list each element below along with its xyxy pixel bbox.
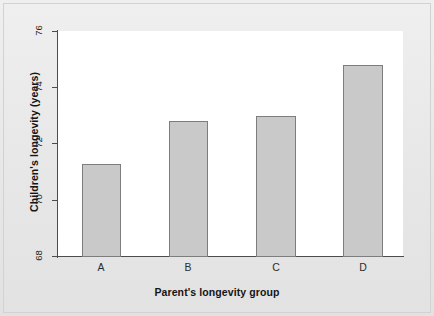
- bar-C: [256, 116, 296, 257]
- bar-D: [343, 65, 383, 257]
- x-tick-label-C: C: [256, 261, 296, 273]
- y-tick-mark-70: [52, 200, 58, 201]
- y-axis-title: Children's longevity (years): [28, 32, 40, 252]
- bar-A: [82, 164, 121, 257]
- figure-container: 76 74 72 70 68 A B C D Parent's longevit…: [0, 0, 434, 316]
- y-tick-mark-74: [52, 87, 58, 88]
- x-tick-label-A: A: [81, 261, 121, 273]
- y-tick-mark-72: [52, 143, 58, 144]
- x-tick-label-D: D: [343, 261, 383, 273]
- y-tick-mark-76: [52, 31, 58, 32]
- y-axis-line: [57, 30, 58, 258]
- y-tick-mark-68: [52, 256, 58, 257]
- x-tick-label-B: B: [168, 261, 208, 273]
- x-axis-title: Parent's longevity group: [0, 286, 434, 298]
- bar-B: [169, 121, 208, 257]
